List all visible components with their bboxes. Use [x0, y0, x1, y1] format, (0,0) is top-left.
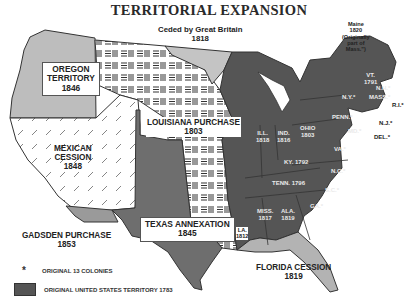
state-tenn: TENN. 1796 — [272, 180, 305, 187]
ind-name: IND. — [277, 130, 290, 137]
state-sc: S.C.* — [325, 187, 339, 194]
ala-name: ALA. — [281, 208, 295, 215]
legend-territory: ORIGINAL UNITED STATES TERRITORY 1783 — [14, 283, 173, 296]
ind-year: 1816 — [277, 137, 290, 144]
texas-annexation-label: TEXAS ANNEXATION 1845 — [140, 217, 235, 242]
la-year: 1812 — [236, 233, 248, 239]
state-ill: ILL.1818 — [256, 130, 269, 143]
british-cession-label: Ceded by Great Britain 1818 — [158, 26, 243, 43]
louisiana-year: 1803 — [147, 127, 240, 136]
florida-cession-region — [237, 232, 338, 292]
state-ri: R.I.* — [392, 102, 404, 109]
florida-name: FLORIDA CESSION — [256, 263, 331, 272]
original-territory-region — [220, 36, 396, 250]
texas-year: 1845 — [145, 229, 230, 238]
legend-territory-label: ORIGINAL UNITED STATES TERRITORY 1783 — [44, 287, 173, 293]
state-vt: VT.1791 — [364, 72, 377, 85]
miss-year: 1817 — [257, 215, 273, 222]
state-ohio: OHIO1803 — [300, 125, 315, 138]
british-year: 1818 — [158, 35, 243, 44]
louisiana-name: LOUISIANA PURCHASE — [147, 118, 240, 127]
maine-l5: Mass.") — [342, 46, 370, 52]
ill-name: ILL. — [256, 130, 269, 137]
mexican-name2: CESSION — [54, 153, 92, 162]
oregon-territory-label: OREGON TERRITORY 1846 — [42, 62, 100, 96]
state-mass: MASS.* — [369, 94, 390, 101]
legend-colonies-label: ORIGINAL 13 COLONIES — [42, 268, 113, 274]
state-ind: IND.1816 — [277, 130, 290, 143]
state-nh: N.H.* — [376, 85, 390, 92]
gadsden-year: 1853 — [22, 240, 111, 249]
territorial-expansion-map: TERRITORIAL EXPANSION — [0, 0, 418, 304]
gadsden-purchase-label: GADSDEN PURCHASE 1853 — [22, 231, 111, 249]
state-penn: PENN.* — [332, 114, 353, 121]
state-va: VA.* — [334, 146, 346, 153]
legend-colonies: * ORIGINAL 13 COLONIES — [14, 265, 113, 276]
state-ky: KY. 1792 — [284, 159, 308, 166]
florida-year: 1819 — [256, 272, 331, 281]
miss-name: MISS. — [257, 208, 273, 215]
vt-name: VT. — [364, 72, 377, 79]
star-icon: * — [14, 265, 34, 276]
maine-label: Maine 1820 (Originally part of Mass.") — [342, 21, 370, 52]
louisiana-state-label: LA. 1812 — [236, 227, 248, 240]
ohio-name: OHIO — [300, 125, 315, 132]
state-ny: N.Y.* — [342, 94, 355, 101]
mexican-name: MEXICAN — [54, 144, 92, 153]
florida-cession-label: FLORIDA CESSION 1819 — [256, 263, 331, 281]
state-nc: N.C.* — [331, 168, 345, 175]
state-ala: ALA.1819 — [281, 208, 295, 221]
ill-year: 1818 — [256, 137, 269, 144]
state-md: MD.* — [348, 128, 361, 135]
oregon-year: 1846 — [47, 84, 95, 93]
ohio-year: 1803 — [300, 132, 315, 139]
mexican-cession-label: MEXICAN CESSION 1848 — [54, 144, 92, 172]
state-miss: MISS.1817 — [257, 208, 273, 221]
territory-swatch-icon — [14, 283, 36, 296]
state-ga: GA.* — [310, 203, 323, 210]
state-nj: N.J.* — [379, 120, 392, 127]
maine-l3: (Originally — [342, 34, 370, 40]
ala-year: 1819 — [281, 215, 295, 222]
gadsden-name: GADSDEN PURCHASE — [22, 231, 111, 240]
state-del: DEL.* — [374, 134, 390, 141]
mexican-year: 1848 — [54, 162, 92, 171]
louisiana-purchase-label: LOUISIANA PURCHASE 1803 — [146, 117, 241, 137]
